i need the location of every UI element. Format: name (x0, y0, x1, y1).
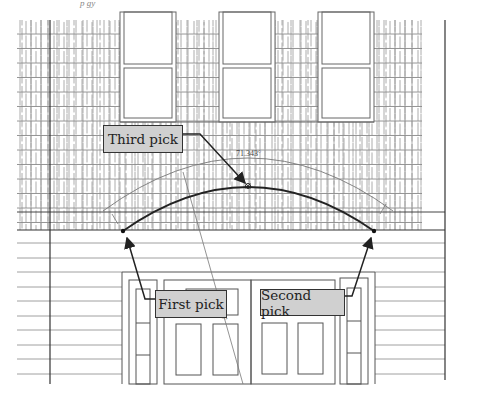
angle-dimension: 71.343° (236, 149, 261, 158)
caption-fragment: p gy (80, 0, 95, 8)
second-pick-callout: Second pick (260, 289, 345, 316)
elevation-drawing (0, 0, 497, 402)
windows (120, 12, 374, 122)
third-pick-callout: Third pick (103, 125, 183, 153)
first-pick-callout: First pick (155, 290, 227, 318)
